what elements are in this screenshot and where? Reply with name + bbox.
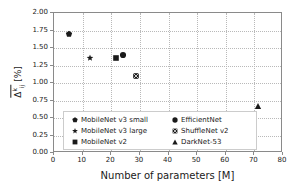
star-marker-icon — [68, 128, 81, 134]
y-axis-tick — [50, 82, 53, 83]
data-point — [133, 73, 140, 80]
y-axis-tick — [50, 12, 53, 13]
legend-entry[interactable]: MobileNet v3 small — [68, 114, 148, 125]
y-axis-tick — [50, 30, 53, 31]
x-axis-tick-label: 20 — [106, 156, 115, 164]
y-axis-tick-label: 1.00 — [32, 78, 48, 86]
x-axis-label: Number of parameters [M] — [53, 170, 282, 181]
y-axis-tick — [50, 135, 53, 136]
y-axis-tick-label: 0.00 — [32, 148, 48, 156]
x-axis-tick — [225, 152, 226, 155]
legend-entry[interactable]: MobileNet v3 large — [68, 125, 148, 136]
x-axis-tick — [168, 152, 169, 155]
legend-label: MobileNet v3 small — [81, 116, 148, 124]
x-axis-tick — [196, 152, 197, 155]
scatter-chart-figure: 010203040506070800.000.250.500.751.001.2… — [0, 0, 294, 190]
legend-label: MobileNet v3 large — [81, 127, 147, 135]
gridline-horizontal — [54, 31, 281, 32]
legend-entry[interactable]: DarkNet-53 — [168, 136, 229, 147]
y-axis-tick-label: 0.50 — [32, 113, 48, 121]
data-point — [65, 31, 72, 38]
y-axis-tick — [50, 65, 53, 66]
legend-entry[interactable]: ShuffleNet v2 — [168, 125, 229, 136]
y-axis-tick-label: 0.75 — [32, 96, 48, 104]
circle-marker-icon — [168, 117, 181, 123]
legend: MobileNet v3 smallMobileNet v3 largeMobi… — [63, 111, 257, 150]
x-axis-tick-label: 70 — [249, 156, 258, 164]
x-axis-tick — [110, 152, 111, 155]
y-axis-units: [%] — [13, 66, 23, 82]
x-square-marker-icon — [168, 128, 181, 134]
legend-entry[interactable]: EfficientNet — [168, 114, 229, 125]
x-axis-tick — [282, 152, 283, 155]
legend-label: ShuffleNet v2 — [181, 127, 229, 135]
legend-label: MobileNet v2 — [81, 138, 127, 146]
y-axis-tick — [50, 152, 53, 153]
data-point — [254, 102, 261, 109]
gridline-horizontal — [54, 66, 281, 67]
x-axis-tick — [253, 152, 254, 155]
y-axis-label-delta: Δkij — [10, 85, 25, 98]
y-axis-tick — [50, 117, 53, 118]
y-axis-tick — [50, 100, 53, 101]
x-axis-tick-label: 60 — [220, 156, 229, 164]
x-axis-tick — [53, 152, 54, 155]
data-point — [112, 55, 119, 62]
legend-column-left: MobileNet v3 smallMobileNet v3 largeMobi… — [68, 114, 148, 147]
y-axis-tick-label: 1.75 — [32, 26, 48, 34]
legend-entry[interactable]: MobileNet v2 — [68, 136, 148, 147]
y-axis-tick-label: 0.25 — [32, 131, 48, 139]
x-axis-tick-label: 40 — [163, 156, 172, 164]
y-axis-tick-label: 1.50 — [32, 43, 48, 51]
y-axis-tick-label: 1.25 — [32, 61, 48, 69]
data-point — [87, 55, 94, 62]
x-axis-tick-label: 50 — [192, 156, 201, 164]
x-axis-tick — [139, 152, 140, 155]
x-axis-tick-label: 10 — [77, 156, 86, 164]
legend-column-right: EfficientNetShuffleNet v2DarkNet-53 — [168, 114, 229, 147]
pentagon-marker-icon — [68, 117, 81, 123]
gridline-horizontal — [54, 101, 281, 102]
x-axis-tick-label: 30 — [134, 156, 143, 164]
y-axis-tick — [50, 47, 53, 48]
legend-label: DarkNet-53 — [181, 138, 221, 146]
gridline-horizontal — [54, 48, 281, 49]
y-axis-delta-symbol: Δ — [13, 92, 23, 98]
gridline-horizontal — [54, 83, 281, 84]
legend-label: EfficientNet — [181, 116, 222, 124]
x-axis-tick — [82, 152, 83, 155]
y-axis-subscript: ij — [18, 85, 25, 88]
y-axis-label: Δkij [%] — [10, 66, 25, 97]
x-axis-tick-label: 80 — [278, 156, 287, 164]
data-point — [120, 52, 127, 59]
y-axis-superscript: k — [11, 88, 18, 91]
y-axis-tick-label: 2.00 — [32, 8, 48, 16]
x-axis-tick-label: 0 — [51, 156, 55, 164]
square-marker-icon — [68, 139, 81, 145]
triangle-marker-icon — [168, 139, 181, 145]
